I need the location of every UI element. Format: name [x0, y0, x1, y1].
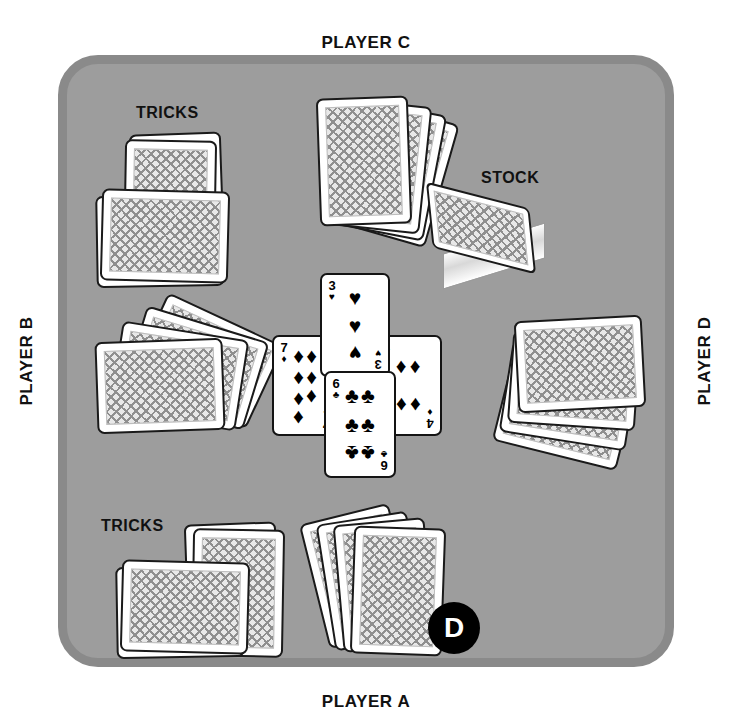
label-player-c: PLAYER C: [0, 33, 732, 53]
card-pips: ♦♦ ♦♦ ♦♦ ♦: [292, 345, 318, 426]
card-pips: ♥ ♥ ♥: [340, 283, 370, 367]
card-corner-index: 3 ♥: [371, 348, 385, 371]
card-pips: ♦♦ ♦♦: [394, 345, 422, 426]
card-back: [514, 315, 647, 414]
card-back: [100, 188, 230, 283]
trick-card-3-hearts[interactable]: 3 ♥ 3 ♥ ♥ ♥ ♥: [320, 273, 390, 377]
label-tricks-player-b: TRICKS: [136, 104, 199, 122]
card-corner-index: 6 ♣: [329, 377, 343, 400]
label-player-d: PLAYER D: [695, 296, 715, 426]
card-corner-index: 4 ♦: [423, 407, 437, 430]
card-corner-index: 3 ♥: [325, 279, 339, 302]
label-tricks-player-a: TRICKS: [101, 517, 164, 535]
card-corner-index: 7 ♦: [277, 341, 291, 364]
label-stock: STOCK: [481, 169, 539, 187]
label-player-b: PLAYER B: [17, 296, 37, 426]
stock-pile[interactable]: [429, 196, 545, 292]
card-pips: ♣♣ ♣♣ ♣♣: [344, 381, 376, 468]
card-back: [120, 559, 250, 654]
dealer-button[interactable]: D: [428, 602, 480, 654]
card-back: [316, 95, 412, 226]
card-back: [94, 338, 225, 434]
card-corner-index: 6 ♣: [377, 449, 391, 472]
trick-card-6-clubs[interactable]: 6 ♣ 6 ♣ ♣♣ ♣♣ ♣♣: [324, 371, 396, 478]
label-player-a: PLAYER A: [0, 692, 732, 712]
